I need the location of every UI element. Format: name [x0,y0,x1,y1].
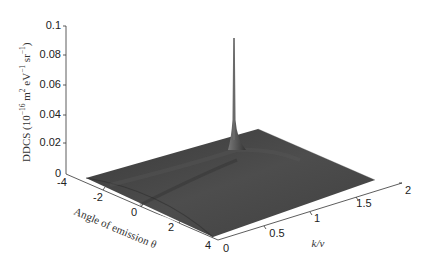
z-axis: 0.1 0.08 0.06 0.04 0.02 0 DDCS (10−16 m2… [18,19,66,179]
z-axis-label: DDCS (10−16 m2 eV−1 sr−1) [18,42,33,162]
z-tick-label: 0.02 [40,136,61,148]
z-tick-label: 0.1 [46,19,61,31]
kv-tick-label: 2 [405,184,411,196]
kv-tick-label: 0 [223,242,229,254]
z-tick-label: 0.04 [40,108,61,120]
theta-tick-label: 4 [205,239,211,251]
theta-tick-label: 0 [131,206,137,218]
kv-tick-label: 0.5 [269,227,284,239]
theta-axis-label: Angle of emission θ [72,205,158,251]
ddcs-surface-plot: 0.1 0.08 0.06 0.04 0.02 0 DDCS (10−16 m2… [0,0,429,263]
kv-axis-label: k/v [312,237,325,249]
z-tick-label: 0.08 [40,48,61,60]
kv-tick-label: 1 [314,212,320,224]
theta-tick-label: -2 [93,191,103,203]
kv-tick-label: 1.5 [356,197,371,209]
theta-tick-label: -4 [57,176,67,188]
z-tick-label: 0.06 [40,78,61,90]
